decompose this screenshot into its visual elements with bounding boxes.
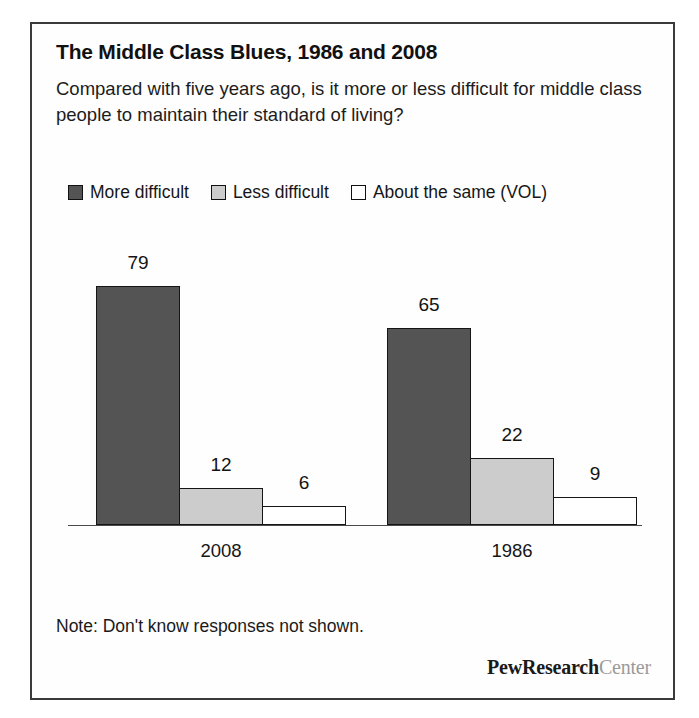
bar-value-1986-more-difficult: 65 — [387, 294, 471, 316]
bar-2008-about-the-same — [262, 506, 346, 525]
bar-value-2008-less-difficult: 12 — [179, 454, 263, 476]
brand-primary-text: PewResearch — [487, 656, 599, 678]
chart-note: Note: Don't know responses not shown. — [56, 616, 364, 637]
x-axis-line — [68, 525, 642, 526]
bar-1986-less-difficult — [470, 458, 554, 525]
bar-value-2008-more-difficult: 79 — [96, 252, 180, 274]
brand-secondary-text: Center — [599, 656, 651, 678]
bar-1986-about-the-same — [553, 497, 637, 525]
chart-inner: The Middle Class Blues, 1986 and 2008 Co… — [32, 24, 673, 698]
bar-value-1986-less-difficult: 22 — [470, 424, 554, 446]
chart-figure: The Middle Class Blues, 1986 and 2008 Co… — [30, 22, 675, 700]
bar-value-2008-about-the-same: 6 — [262, 472, 346, 494]
x-axis-label-2008: 2008 — [179, 540, 263, 562]
bar-2008-more-difficult — [96, 286, 180, 525]
bar-2008-less-difficult — [179, 488, 263, 525]
x-axis-label-1986: 1986 — [470, 540, 554, 562]
bar-1986-more-difficult — [387, 328, 471, 525]
chart-plot-area: 79 12 6 2008 65 22 9 1986 — [32, 24, 677, 702]
bar-value-1986-about-the-same: 9 — [553, 463, 637, 485]
pew-research-center-logo: PewResearchCenter — [487, 656, 651, 679]
